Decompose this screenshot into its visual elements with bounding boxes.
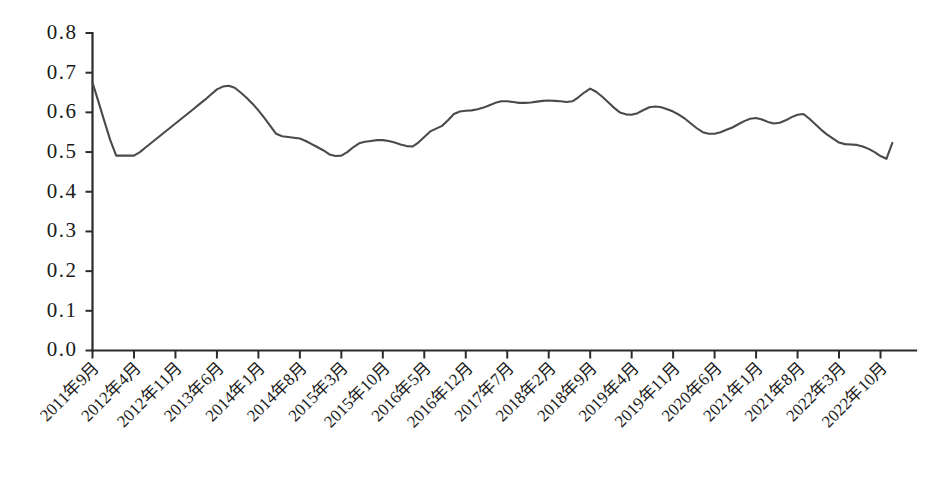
y-tick-label: 0.2 bbox=[47, 258, 78, 282]
line-chart: 0.00.10.20.30.40.50.60.70.8 2011年9月2012年… bbox=[0, 0, 943, 481]
y-tick-label: 0.6 bbox=[47, 99, 78, 123]
y-tick-label: 0.4 bbox=[47, 179, 78, 203]
axes-group bbox=[93, 33, 917, 351]
chart-container: 0.00.10.20.30.40.50.60.70.8 2011年9月2012年… bbox=[0, 0, 943, 481]
data-series-line bbox=[93, 83, 893, 159]
y-tick-label: 0.7 bbox=[47, 60, 78, 84]
y-axis-ticks: 0.00.10.20.30.40.50.60.70.8 bbox=[47, 20, 93, 362]
x-axis-ticks: 2011年9月2012年4月2012年11月2013年6月2014年1月2014… bbox=[36, 351, 891, 432]
y-tick-label: 0.3 bbox=[47, 218, 78, 242]
y-tick-label: 0.8 bbox=[47, 20, 78, 44]
y-tick-label: 0.1 bbox=[47, 298, 78, 322]
y-tick-label: 0.0 bbox=[47, 337, 78, 361]
y-tick-label: 0.5 bbox=[47, 139, 78, 163]
